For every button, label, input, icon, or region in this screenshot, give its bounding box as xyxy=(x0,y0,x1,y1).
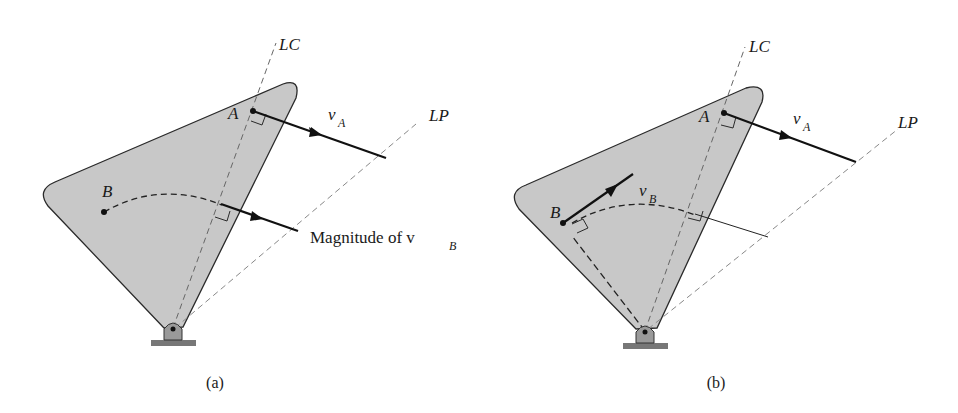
point-a-dot xyxy=(721,110,727,116)
lp-label: LP xyxy=(428,106,449,125)
magnitude-projection-line xyxy=(695,214,768,237)
panel-b: LC LP A B v A v B (b) xyxy=(514,37,917,392)
velocity-b-subscript: B xyxy=(649,192,657,206)
pivot-pin xyxy=(643,330,648,335)
velocity-a-label: v xyxy=(793,109,801,128)
point-b-label: B xyxy=(550,203,561,222)
velocity-b-label: v xyxy=(639,181,647,200)
magnitude-label: Magnitude of v xyxy=(310,228,415,247)
pivot-pin xyxy=(171,327,176,332)
magnitude-subscript: B xyxy=(449,239,457,253)
point-b-label: B xyxy=(102,182,113,201)
lp-label: LP xyxy=(897,113,918,132)
ground-base xyxy=(151,340,196,346)
panel-a: LC LP A B v A Magnitude of v B (a) xyxy=(43,35,457,392)
point-b-dot xyxy=(560,220,566,226)
lc-label: LC xyxy=(748,37,770,56)
velocity-a-subscript: A xyxy=(337,116,346,130)
velocity-a-subscript: A xyxy=(802,120,811,134)
point-a-label: A xyxy=(227,104,239,123)
panel-a-caption: (a) xyxy=(206,374,224,392)
figure-canvas: LC LP A B v A Magnitude of v B (a) xyxy=(0,0,958,413)
lc-label: LC xyxy=(278,35,300,54)
panel-b-caption: (b) xyxy=(707,374,726,392)
point-b-dot xyxy=(101,209,107,215)
point-a-dot xyxy=(250,108,256,114)
velocity-a-label: v xyxy=(328,105,336,124)
ground-base xyxy=(623,343,668,349)
point-a-label: A xyxy=(698,107,710,126)
rigid-body xyxy=(43,83,297,328)
